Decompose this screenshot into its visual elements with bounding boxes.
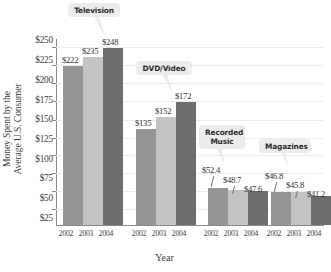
bar-value-label: $46.8 xyxy=(265,172,283,181)
y-tick-mark xyxy=(52,65,56,66)
y-tick-mark xyxy=(52,47,56,48)
y-tick-mark xyxy=(52,155,56,156)
y-tick-mark xyxy=(52,101,56,102)
bar-value-label: $235 xyxy=(82,47,98,56)
bar-magazines-2002 xyxy=(271,192,291,225)
callout-television-line-1: Television xyxy=(74,6,114,15)
bar-television-2002 xyxy=(63,66,83,225)
bar-value-label: $52.4 xyxy=(202,166,220,175)
y-tick-label: $225 xyxy=(19,56,53,65)
leader-line xyxy=(211,176,215,187)
y-tick-label: $75 xyxy=(19,174,53,183)
bar-value-label: $172 xyxy=(175,92,191,101)
bar-value-label: $47.6 xyxy=(244,185,262,194)
y-tick-mark xyxy=(52,120,56,121)
callout-dvd-video-line-1: DVD/Video xyxy=(142,64,186,73)
bar-value-label: $152 xyxy=(155,107,171,116)
callout-television-tail xyxy=(94,16,105,37)
bar-dvd-video-2002 xyxy=(136,129,156,225)
y-tick-label: $100 xyxy=(19,155,53,164)
bar-television-2003 xyxy=(83,57,103,225)
x-axis-title: Year xyxy=(0,252,329,263)
y-tick-label: $175 xyxy=(19,96,53,105)
bar-recorded-music-2003 xyxy=(228,190,248,225)
x-tick-label-television-2004: 2004 xyxy=(93,230,119,238)
y-tick-label: $250 xyxy=(19,36,53,45)
y-tick-mark xyxy=(52,138,56,139)
callout-television: Television xyxy=(68,3,120,17)
x-tick-label-magazines-2004: 2004 xyxy=(301,230,327,238)
bar-recorded-music-2004 xyxy=(248,191,268,225)
callout-magazines: Magazines xyxy=(259,139,311,153)
y-axis-line xyxy=(56,39,57,226)
x-axis-line xyxy=(56,225,324,226)
bar-value-label: $135 xyxy=(135,119,151,128)
y-tick-mark xyxy=(52,83,56,84)
bar-dvd-video-2004 xyxy=(176,102,196,225)
bar-magazines-2004 xyxy=(311,196,331,225)
y-tick-label: $200 xyxy=(19,76,53,85)
y-tick-label: $25 xyxy=(19,214,53,223)
callout-magazines-line-1: Magazines xyxy=(265,142,305,151)
bar-value-label: $45.8 xyxy=(286,181,304,190)
callout-recorded-music-line-2: Music xyxy=(205,137,239,146)
y-axis-title-line-1: Money Spent by the xyxy=(2,84,13,175)
callout-recorded-music-line-1: Recorded xyxy=(205,128,239,137)
bar-value-label: $41.2 xyxy=(307,190,325,199)
callout-recorded-music: Recorded Music xyxy=(199,125,245,149)
bar-dvd-video-2003 xyxy=(156,117,176,225)
y-axis-tick-labels: $250 $225 $200 $175 $150 $125 $100 $75 $… xyxy=(19,0,53,272)
y-tick-mark xyxy=(52,173,56,174)
bar-television-2004 xyxy=(103,48,123,225)
bar-value-label: $222 xyxy=(62,56,78,65)
bar-value-label: $248 xyxy=(102,38,118,47)
y-tick-label: $150 xyxy=(19,115,53,124)
y-tick-mark xyxy=(52,209,56,210)
y-tick-label: $50 xyxy=(19,194,53,203)
y-tick-mark xyxy=(52,191,56,192)
y-tick-label: $125 xyxy=(19,135,53,144)
bar-value-label: $48.7 xyxy=(223,176,241,185)
callout-dvd-video: DVD/Video xyxy=(136,61,192,75)
x-tick-label-dvd-video-2004: 2004 xyxy=(166,230,192,238)
bar-recorded-music-2002 xyxy=(208,188,228,225)
